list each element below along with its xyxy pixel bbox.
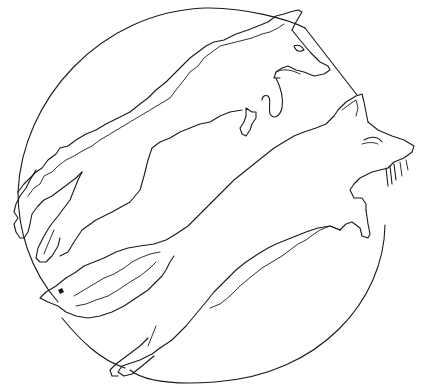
- lower-fox: [40, 94, 414, 376]
- fox-drawing: [0, 0, 427, 391]
- circle-frame: [18, 8, 385, 383]
- line-art-canvas: Two foxes leaping inside a circle: [0, 0, 427, 391]
- upper-fox: [14, 10, 330, 262]
